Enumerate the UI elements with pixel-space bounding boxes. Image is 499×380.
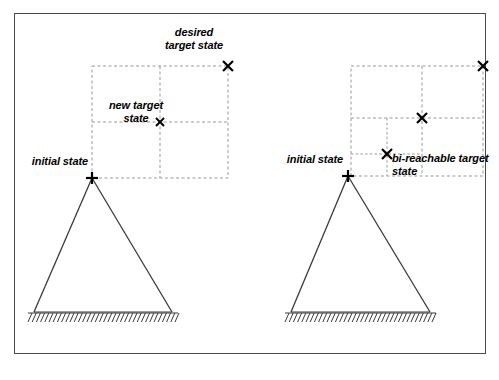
right-truss-bar-left bbox=[291, 176, 348, 312]
hatch-tick bbox=[129, 313, 133, 322]
hatch-tick bbox=[323, 313, 327, 322]
hatch-tick bbox=[116, 313, 120, 322]
hatch-tick bbox=[146, 313, 150, 322]
hatch-tick bbox=[285, 313, 289, 322]
hatch-tick bbox=[104, 313, 108, 322]
hatch-tick bbox=[137, 313, 141, 322]
hatch-tick bbox=[319, 313, 323, 322]
right-initial-state-label: initial state bbox=[275, 153, 343, 166]
hatch-tick bbox=[411, 313, 415, 322]
hatch-tick bbox=[398, 313, 402, 322]
hatch-tick bbox=[95, 313, 99, 322]
hatch-tick bbox=[373, 313, 377, 322]
hatch-tick bbox=[369, 313, 373, 322]
right-panel-truss bbox=[291, 176, 430, 312]
hatch-tick bbox=[83, 313, 87, 322]
hatch-tick bbox=[335, 313, 339, 322]
hatch-tick bbox=[348, 313, 352, 322]
figure-root: desired target state new target state in… bbox=[0, 0, 499, 380]
left-ground-hatching bbox=[28, 313, 179, 322]
hatch-tick bbox=[302, 313, 306, 322]
hatch-tick bbox=[171, 313, 175, 322]
hatch-tick bbox=[327, 313, 331, 322]
hatch-tick bbox=[424, 313, 428, 322]
diagram-canvas bbox=[0, 0, 499, 380]
hatch-tick bbox=[66, 313, 70, 322]
hatch-tick bbox=[428, 313, 432, 322]
left-truss-bar-left bbox=[34, 178, 92, 312]
hatch-tick bbox=[28, 313, 32, 322]
hatch-tick bbox=[87, 313, 91, 322]
hatch-tick bbox=[91, 313, 95, 322]
hatch-tick bbox=[108, 313, 112, 322]
right-ground-hatching bbox=[285, 313, 436, 322]
hatch-tick bbox=[133, 313, 137, 322]
hatch-tick bbox=[70, 313, 74, 322]
right-initial-state-marker bbox=[342, 170, 354, 182]
hatch-tick bbox=[150, 313, 154, 322]
hatch-tick bbox=[390, 313, 394, 322]
hatch-tick bbox=[158, 313, 162, 322]
hatch-tick bbox=[415, 313, 419, 322]
hatch-tick bbox=[32, 313, 36, 322]
hatch-tick bbox=[36, 313, 40, 322]
hatch-tick bbox=[352, 313, 356, 322]
hatch-tick bbox=[293, 313, 297, 322]
hatch-tick bbox=[344, 313, 348, 322]
hatch-tick bbox=[49, 313, 53, 322]
hatch-tick bbox=[289, 313, 293, 322]
hatch-tick bbox=[167, 313, 171, 322]
left-panel-truss bbox=[34, 178, 172, 312]
hatch-tick bbox=[314, 313, 318, 322]
hatch-tick bbox=[361, 313, 365, 322]
hatch-tick bbox=[340, 313, 344, 322]
hatch-tick bbox=[62, 313, 66, 322]
hatch-tick bbox=[306, 313, 310, 322]
hatch-tick bbox=[382, 313, 386, 322]
hatch-tick bbox=[162, 313, 166, 322]
hatch-tick bbox=[298, 313, 302, 322]
left-initial-state-label: initial state bbox=[18, 155, 88, 168]
hatch-tick bbox=[377, 313, 381, 322]
hatch-tick bbox=[175, 313, 179, 322]
hatch-tick bbox=[154, 313, 158, 322]
hatch-tick bbox=[120, 313, 124, 322]
hatch-tick bbox=[53, 313, 57, 322]
hatch-tick bbox=[112, 313, 116, 322]
hatch-tick bbox=[99, 313, 103, 322]
hatch-tick bbox=[419, 313, 423, 322]
hatch-tick bbox=[386, 313, 390, 322]
hatch-tick bbox=[407, 313, 411, 322]
hatch-tick bbox=[403, 313, 407, 322]
hatch-tick bbox=[78, 313, 82, 322]
hatch-tick bbox=[141, 313, 145, 322]
hatch-tick bbox=[74, 313, 78, 322]
new-target-state-label: new target state bbox=[100, 99, 172, 125]
bi-reachable-target-state-label: bi-reachable target state bbox=[392, 152, 498, 178]
hatch-tick bbox=[310, 313, 314, 322]
desired-target-state-label: desired target state bbox=[146, 26, 242, 52]
hatch-tick bbox=[45, 313, 49, 322]
hatch-tick bbox=[432, 313, 436, 322]
left-initial-state-marker bbox=[86, 172, 98, 184]
hatch-tick bbox=[394, 313, 398, 322]
hatch-tick bbox=[125, 313, 129, 322]
hatch-tick bbox=[57, 313, 61, 322]
left-truss-bar-right bbox=[92, 178, 172, 312]
right-truss-bar-right bbox=[348, 176, 430, 312]
hatch-tick bbox=[331, 313, 335, 322]
hatch-tick bbox=[356, 313, 360, 322]
hatch-tick bbox=[41, 313, 45, 322]
hatch-tick bbox=[365, 313, 369, 322]
